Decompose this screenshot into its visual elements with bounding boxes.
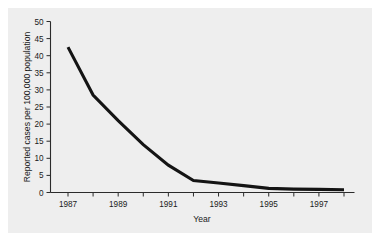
line-chart: 05101520253035404550 1987198919911993199… [0, 0, 380, 246]
y-tick-label: 10 [34, 154, 44, 163]
y-tick-label: 45 [34, 35, 44, 44]
y-tick-label: 15 [34, 137, 44, 146]
x-tick-label: 1993 [209, 200, 228, 209]
y-tick-label: 5 [39, 171, 44, 180]
x-tick-label: 1989 [109, 200, 128, 209]
y-tick-label: 50 [34, 18, 44, 27]
x-tick-label: 1991 [159, 200, 178, 209]
y-tick-label: 30 [34, 86, 44, 95]
y-tick-label: 40 [34, 52, 44, 61]
y-tick-label: 0 [39, 189, 44, 198]
chart-figure: 05101520253035404550 1987198919911993199… [0, 0, 380, 246]
data-series-line [68, 47, 344, 190]
y-axis-tick-labels: 05101520253035404550 [34, 18, 44, 198]
y-tick-label: 20 [34, 120, 44, 129]
x-tick-label: 1997 [310, 200, 329, 209]
x-axis-title: Year [193, 214, 211, 224]
x-tick-label: 1995 [260, 200, 279, 209]
y-axis-tick-marks [47, 22, 51, 193]
x-axis-tick-labels: 198719891991199319951997 [59, 200, 329, 209]
y-axis-title: Reported cases per 100,000 population [22, 32, 32, 183]
y-tick-label: 35 [34, 69, 44, 78]
x-axis-tick-marks [68, 193, 344, 197]
x-tick-label: 1987 [59, 200, 78, 209]
y-tick-label: 25 [34, 103, 44, 112]
